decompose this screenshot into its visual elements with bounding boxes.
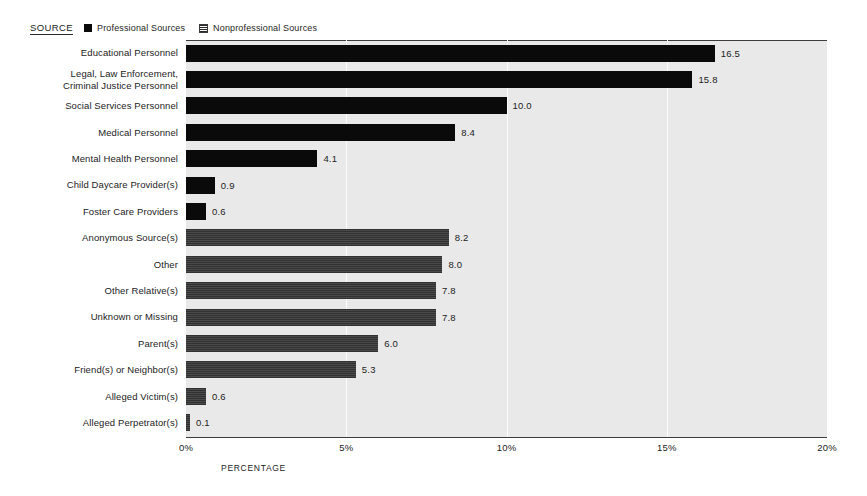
x-tick-label: 10% [497,442,517,453]
bar-row: Educational Personnel16.5 [0,40,867,66]
x-tick-label: 5% [339,442,353,453]
x-tick-label: 0% [179,442,193,453]
bar-container: 8.0 [186,251,462,277]
bar-row: Alleged Victim(s)0.6 [0,383,867,409]
bar-value-label: 8.0 [448,259,462,270]
bar[interactable] [186,335,378,352]
bar-value-label: 7.8 [442,312,456,323]
bar[interactable] [186,150,317,167]
legend-title: SOURCE [30,22,73,35]
category-label: Other [18,259,178,271]
bar-container: 0.6 [186,383,226,409]
x-axis-title: PERCENTAGE [0,463,867,473]
bar-container: 5.3 [186,357,376,383]
bar-container: 7.8 [186,278,456,304]
category-label: Mental Health Personnel [18,153,178,165]
x-tick-label: 15% [657,442,677,453]
bar-row: Social Services Personnel10.0 [0,93,867,119]
bar[interactable] [186,414,190,431]
category-label: Foster Care Providers [18,206,178,218]
bar[interactable] [186,97,507,114]
bar-value-label: 8.2 [455,232,469,243]
legend-item-professional[interactable]: Professional Sources [84,23,185,33]
bar[interactable] [186,203,206,220]
hatched-square-icon [199,24,208,33]
bar-row: Mental Health Personnel4.1 [0,146,867,172]
bar-container: 0.6 [186,198,226,224]
bar-row: Parent(s)6.0 [0,330,867,356]
category-label: Medical Personnel [18,127,178,139]
bar-container: 0.1 [186,410,210,436]
x-axis-title-label: PERCENTAGE [221,463,286,473]
bar[interactable] [186,361,356,378]
bar[interactable] [186,256,442,273]
bar-value-label: 0.1 [196,417,210,428]
x-axis-ticks: 0%5%10%15%20% [0,442,867,456]
bar-container: 4.1 [186,146,337,172]
bar[interactable] [186,45,715,62]
category-label: Anonymous Source(s) [18,232,178,244]
bar[interactable] [186,177,215,194]
legend-item-nonprofessional[interactable]: Nonprofessional Sources [199,23,317,33]
bar-value-label: 0.6 [212,206,226,217]
bar-row: Foster Care Providers0.6 [0,198,867,224]
bar-row: Friend(s) or Neighbor(s)5.3 [0,357,867,383]
bar-value-label: 7.8 [442,285,456,296]
category-label: Alleged Victim(s) [18,391,178,403]
bar[interactable] [186,124,455,141]
bar-container: 16.5 [186,40,740,66]
category-label: Unknown or Missing [18,311,178,323]
chart-legend: SOURCE Professional Sources Nonprofessio… [30,21,331,35]
bar-value-label: 6.0 [384,338,398,349]
bar-value-label: 0.9 [221,180,235,191]
filled-square-icon [84,24,92,32]
bar-value-label: 4.1 [323,153,337,164]
bar-container: 15.8 [186,66,718,92]
bar-row: Other Relative(s)7.8 [0,278,867,304]
bar-row: Unknown or Missing7.8 [0,304,867,330]
bar-container: 6.0 [186,330,398,356]
legend-label-nonprofessional: Nonprofessional Sources [213,23,317,33]
category-label: Social Services Personnel [18,100,178,112]
category-label: Friend(s) or Neighbor(s) [18,364,178,376]
bar[interactable] [186,309,436,326]
x-axis-line [186,437,827,438]
bar-row: Alleged Perpetrator(s)0.1 [0,410,867,436]
bar-rows: Educational Personnel16.5Legal, Law Enfo… [0,40,867,436]
bar[interactable] [186,71,692,88]
bar-value-label: 16.5 [721,48,740,59]
bar-value-label: 5.3 [362,364,376,375]
category-label: Educational Personnel [18,47,178,59]
bar-container: 7.8 [186,304,456,330]
x-tick-label: 20% [817,442,837,453]
legend-label-professional: Professional Sources [97,23,185,33]
bar-value-label: 15.8 [698,74,717,85]
category-label: Parent(s) [18,338,178,350]
bar-row: Legal, Law Enforcement, Criminal Justice… [0,66,867,92]
bar[interactable] [186,388,206,405]
bar-container: 8.2 [186,225,469,251]
bar[interactable] [186,282,436,299]
bar-row: Other8.0 [0,251,867,277]
category-label: Child Daycare Provider(s) [18,179,178,191]
bar-row: Anonymous Source(s)8.2 [0,225,867,251]
bar-container: 0.9 [186,172,235,198]
bar-value-label: 0.6 [212,391,226,402]
bar-chart: SOURCE Professional Sources Nonprofessio… [0,0,867,496]
bar-value-label: 8.4 [461,127,475,138]
bar-value-label: 10.0 [513,100,532,111]
bar-container: 10.0 [186,93,532,119]
category-label: Alleged Perpetrator(s) [18,417,178,429]
bar-row: Child Daycare Provider(s)0.9 [0,172,867,198]
category-label: Legal, Law Enforcement, Criminal Justice… [18,68,178,91]
bar-row: Medical Personnel8.4 [0,119,867,145]
bar-container: 8.4 [186,119,475,145]
category-label: Other Relative(s) [18,285,178,297]
bar[interactable] [186,229,449,246]
